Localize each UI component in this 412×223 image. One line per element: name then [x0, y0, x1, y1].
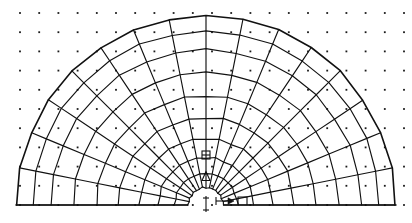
- grid-dot: [19, 89, 21, 91]
- grid-dot: [192, 127, 194, 129]
- grid-dot: [154, 31, 156, 33]
- grid-dot: [288, 12, 290, 14]
- grid-dot: [346, 70, 348, 72]
- grid-dot: [19, 12, 21, 14]
- grid-dot: [38, 166, 40, 168]
- grid-dot: [134, 185, 136, 187]
- grid-dot: [230, 31, 232, 33]
- grid-dot: [19, 31, 21, 33]
- grid-dot: [384, 108, 386, 110]
- grid-dot: [154, 51, 156, 53]
- grid-dot: [384, 185, 386, 187]
- grid-dot: [154, 147, 156, 149]
- figure-canvas: [0, 0, 412, 223]
- grid-dot: [288, 127, 290, 129]
- grid-dot: [326, 185, 328, 187]
- grid-dot: [403, 70, 405, 72]
- grid-dot: [384, 12, 386, 14]
- grid-dot: [403, 166, 405, 168]
- grid-dot: [96, 31, 98, 33]
- grid-dot: [326, 31, 328, 33]
- grid-dot: [269, 166, 271, 168]
- mesh-spoke: [101, 48, 196, 191]
- grid-dot: [77, 31, 79, 33]
- grid-dot: [58, 70, 60, 72]
- grid-dot: [134, 108, 136, 110]
- grid-dot: [250, 89, 252, 91]
- grid-dot: [403, 147, 405, 149]
- grid-dot: [346, 185, 348, 187]
- grid-dot: [384, 70, 386, 72]
- mesh-figure-svg: [0, 0, 412, 223]
- grid-dot: [250, 12, 252, 14]
- grid-dot: [77, 70, 79, 72]
- grid-dot: [173, 89, 175, 91]
- grid-dot: [115, 31, 117, 33]
- grid-dot: [326, 89, 328, 91]
- grid-dot: [230, 70, 232, 72]
- grid-dot: [38, 89, 40, 91]
- grid-dot: [211, 204, 213, 206]
- grid-dot: [288, 147, 290, 149]
- grid-dot: [326, 51, 328, 53]
- grid-dot: [115, 12, 117, 14]
- grid-dot: [288, 108, 290, 110]
- grid-dot: [288, 89, 290, 91]
- grid-dot: [19, 185, 21, 187]
- grid-dot: [307, 127, 309, 129]
- grid-dot: [58, 31, 60, 33]
- grid-dot: [403, 204, 405, 206]
- grid-dot: [134, 70, 136, 72]
- grid-dot: [96, 166, 98, 168]
- grid-dot: [96, 108, 98, 110]
- grid-dot: [230, 12, 232, 14]
- grid-dot: [38, 147, 40, 149]
- grid-dot: [250, 147, 252, 149]
- grid-dot: [211, 108, 213, 110]
- grid-dot: [134, 147, 136, 149]
- grid-dot: [250, 51, 252, 53]
- grid-dot: [192, 147, 194, 149]
- grid-dot: [96, 89, 98, 91]
- grid-dot: [307, 70, 309, 72]
- grid-dot: [326, 166, 328, 168]
- grid-dot: [250, 166, 252, 168]
- grid-dot: [58, 147, 60, 149]
- grid-dot: [77, 147, 79, 149]
- grid-dot: [96, 12, 98, 14]
- grid-dot: [288, 51, 290, 53]
- grid-dot: [134, 166, 136, 168]
- grid-dot: [346, 127, 348, 129]
- grid-dot: [38, 108, 40, 110]
- grid-dot: [346, 12, 348, 14]
- grid-dot: [384, 31, 386, 33]
- grid-dot: [154, 70, 156, 72]
- grid-dot: [269, 31, 271, 33]
- grid-dot: [38, 70, 40, 72]
- grid-dot: [384, 166, 386, 168]
- grid-dot: [365, 51, 367, 53]
- grid-dot: [192, 166, 194, 168]
- grid-dot: [403, 51, 405, 53]
- grid-dot: [173, 108, 175, 110]
- grid-dot: [326, 147, 328, 149]
- grid-dot: [269, 12, 271, 14]
- grid-dot: [77, 51, 79, 53]
- grid-dot: [115, 147, 117, 149]
- grid-dot: [77, 166, 79, 168]
- grid-dot: [58, 185, 60, 187]
- mesh-spoke: [216, 48, 312, 191]
- grid-dot: [19, 108, 21, 110]
- grid-dot: [403, 31, 405, 33]
- grid-dot: [384, 51, 386, 53]
- grid-dot: [365, 89, 367, 91]
- grid-dot: [19, 51, 21, 53]
- grid-dot: [192, 89, 194, 91]
- grid-dot: [77, 127, 79, 129]
- grid-dot: [365, 31, 367, 33]
- grid-dot: [269, 127, 271, 129]
- grid-dot: [365, 166, 367, 168]
- grid-dot: [250, 70, 252, 72]
- grid-dot: [19, 147, 21, 149]
- grid-dot: [307, 147, 309, 149]
